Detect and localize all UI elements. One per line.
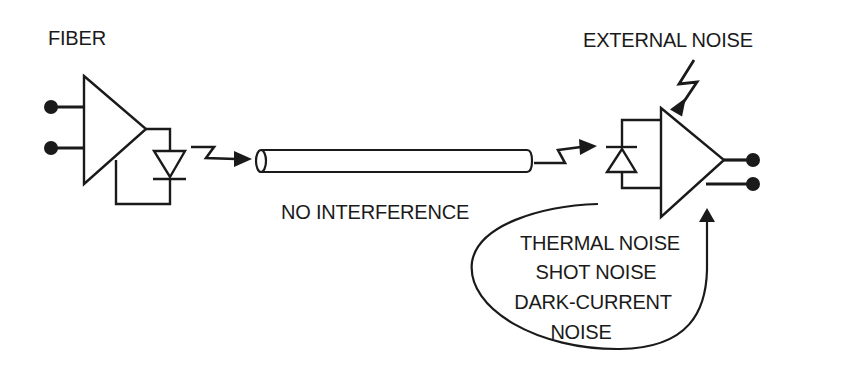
fiber-link-diagram xyxy=(0,0,841,378)
dark-current-noise-label: NOISE xyxy=(550,322,611,342)
fiber-cable-icon xyxy=(256,150,532,172)
output-terminal-top-icon xyxy=(746,153,760,167)
optical-signal-arrow-icon xyxy=(191,147,252,167)
no-interference-label: NO INTERFERENCE xyxy=(281,202,469,222)
dark-current-label: DARK-CURRENT xyxy=(514,292,672,312)
shot-noise-label: SHOT NOISE xyxy=(536,262,657,282)
optical-signal-arrow-icon xyxy=(534,139,597,163)
led-diode-icon xyxy=(153,151,186,179)
transmitter xyxy=(44,76,186,204)
fiber-label: FIBER xyxy=(48,28,106,48)
receiver xyxy=(606,108,760,217)
output-terminal-bottom-icon xyxy=(746,177,760,191)
thermal-noise-label: THERMAL NOISE xyxy=(520,233,680,253)
receiver-amplifier-icon xyxy=(661,108,724,217)
external-noise-arrow-icon xyxy=(670,60,697,116)
photodiode-icon xyxy=(606,147,637,172)
external-noise-label: EXTERNAL NOISE xyxy=(583,30,753,50)
